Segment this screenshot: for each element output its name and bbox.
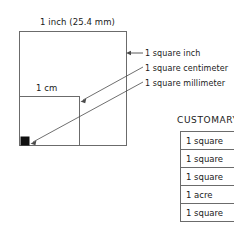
table-cell-label: 1 square <box>186 154 223 164</box>
inch-dimension-label: 1 inch (25.4 mm) <box>40 18 115 27</box>
diagram-page: 1 inch (25.4 mm) 1 cm 1 square inch 1 sq… <box>0 0 234 240</box>
customary-table: 1 square 1 square 1 square 1 acre 1 squa… <box>180 131 234 222</box>
table-row: 1 acre <box>181 186 234 204</box>
table-row: 1 square <box>181 204 234 222</box>
square-millimeter-fill <box>21 137 29 145</box>
table-cell-label: 1 square <box>186 136 223 146</box>
callout-label-square-inch: 1 square inch <box>145 49 201 58</box>
table-cell-label: 1 acre <box>186 190 213 200</box>
table-row: 1 square <box>181 168 234 186</box>
arrowhead-square-millimeter <box>31 141 37 146</box>
cm-dimension-label: 1 cm <box>36 84 57 93</box>
table-cell-label: 1 square <box>186 208 223 218</box>
callout-label-square-millimeter: 1 square millimeter <box>145 79 225 88</box>
table-row: 1 square <box>181 132 234 150</box>
callout-label-square-centimeter: 1 square centimeter <box>145 64 228 73</box>
arrowhead-square-centimeter <box>81 99 87 104</box>
customary-heading: CUSTOMARY <box>177 116 234 125</box>
table-row: 1 square <box>181 150 234 168</box>
table-cell-label: 1 square <box>186 172 223 182</box>
leader-line-square-centimeter <box>83 67 143 100</box>
